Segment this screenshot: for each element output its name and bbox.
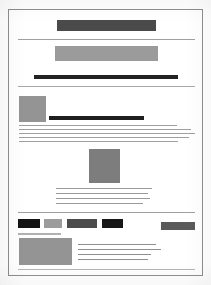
- redacted-title-block: [57, 20, 156, 31]
- text-line: [78, 254, 151, 255]
- text-line: [19, 125, 177, 126]
- text-line: [78, 259, 148, 260]
- text-line: [19, 141, 178, 142]
- redacted-chip: [18, 219, 40, 228]
- text-line: [19, 133, 195, 134]
- redacted-subtitle-block: [55, 46, 158, 61]
- document-thumbnail: [0, 0, 211, 285]
- horizontal-rule: [18, 39, 195, 40]
- horizontal-rule: [18, 233, 61, 235]
- redacted-chip: [44, 219, 62, 228]
- text-line: [19, 129, 191, 130]
- text-line: [56, 198, 150, 199]
- redacted-chip: [102, 219, 123, 228]
- redacted-chip: [161, 222, 195, 230]
- horizontal-rule: [18, 86, 195, 87]
- page-sheet: [8, 9, 203, 276]
- image-placeholder-center: [89, 149, 120, 183]
- image-placeholder-bottom: [19, 238, 72, 265]
- image-placeholder-left: [19, 96, 46, 122]
- redacted-chip: [67, 219, 97, 228]
- text-line: [19, 137, 189, 138]
- horizontal-rule: [18, 269, 195, 270]
- redacted-caption-bar: [49, 116, 144, 120]
- text-line: [56, 188, 152, 189]
- text-line: [56, 193, 148, 194]
- text-line: [78, 249, 161, 250]
- redacted-emphasis-bar: [34, 75, 178, 79]
- text-line: [78, 244, 156, 245]
- text-line: [56, 203, 143, 204]
- horizontal-rule: [18, 212, 195, 213]
